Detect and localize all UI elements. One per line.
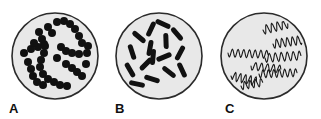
- panel-c-label: C: [225, 102, 234, 115]
- panel-c-spirilla: C: [211, 0, 318, 119]
- petri-dish-outline: [116, 13, 202, 99]
- coccus-cell: [36, 63, 44, 71]
- coccus-cell: [35, 28, 43, 36]
- coccus-cell: [24, 58, 32, 66]
- coccus-cell: [53, 54, 61, 62]
- coccus-cell: [20, 49, 28, 57]
- coccus-cell: [48, 29, 56, 37]
- coccus-cell: [75, 50, 83, 58]
- coccus-cell: [56, 81, 64, 89]
- coccus-cell: [38, 35, 46, 43]
- coccus-cell: [78, 72, 86, 80]
- coccus-cell: [84, 42, 92, 50]
- coccus-cell: [83, 49, 91, 57]
- coccus-cell: [63, 82, 71, 90]
- bacteria-shapes-figure: A B C: [0, 0, 321, 119]
- coccus-cell: [37, 56, 45, 64]
- coccus-cell: [71, 25, 79, 33]
- coccus-cell: [53, 18, 61, 26]
- coccus-cell: [75, 32, 83, 40]
- coccus-cell: [40, 49, 48, 57]
- panel-a-cocci: A: [0, 0, 107, 119]
- coccus-cell: [27, 65, 35, 73]
- panel-b-bacilli: B: [106, 0, 213, 119]
- coccus-cell: [41, 42, 49, 50]
- coccus-cell: [30, 39, 38, 47]
- bacillus-cell: [163, 33, 169, 49]
- panel-b-label: B: [115, 102, 124, 115]
- coccus-cell: [68, 49, 76, 57]
- panel-a-label: A: [9, 102, 18, 115]
- coccus-cell: [82, 60, 90, 68]
